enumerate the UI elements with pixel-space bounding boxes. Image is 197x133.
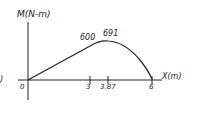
tick-label-6: 6 <box>149 84 153 91</box>
tick-label-387: 3.87 <box>100 84 116 91</box>
value-label-691: 691 <box>103 30 118 38</box>
tick-label-3: 3 <box>86 84 90 91</box>
moment-curve <box>28 41 152 80</box>
moment-diagram <box>0 0 197 133</box>
value-label-600: 600 <box>80 34 95 42</box>
origin-label: 0 <box>20 84 24 91</box>
x-axis-label: X(m) <box>162 73 182 81</box>
panel-label: ) <box>0 76 3 84</box>
y-axis-label: M(N-m) <box>17 10 51 19</box>
